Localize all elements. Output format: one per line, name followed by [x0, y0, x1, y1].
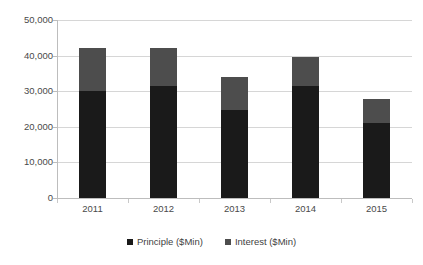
x-tick-label: 2013 — [205, 203, 265, 215]
bar-segment[interactable] — [150, 86, 177, 198]
y-tick-label: 30,000 — [3, 86, 53, 96]
x-tick-mark — [57, 199, 58, 203]
bar-group[interactable] — [150, 20, 177, 198]
bar-group[interactable] — [363, 20, 390, 198]
x-axis-line — [57, 198, 412, 199]
bar-segment[interactable] — [79, 91, 106, 198]
legend-item[interactable]: Interest ($Min) — [225, 236, 296, 247]
legend-label: Interest ($Min) — [235, 236, 296, 247]
x-tick-mark — [341, 199, 342, 203]
plot-area — [57, 20, 412, 198]
bar-segment[interactable] — [292, 86, 319, 198]
legend-item[interactable]: Principle ($Min) — [127, 236, 203, 247]
bar-segment[interactable] — [363, 99, 390, 123]
x-tick-label: 2012 — [134, 203, 194, 215]
x-tick-mark — [128, 199, 129, 203]
x-tick-mark — [199, 199, 200, 203]
bar-group[interactable] — [221, 20, 248, 198]
x-tick-label: 2011 — [63, 203, 123, 215]
legend-label: Principle ($Min) — [137, 236, 203, 247]
x-axis: 20112012201320142015 — [57, 203, 412, 219]
x-tick-label: 2015 — [347, 203, 407, 215]
bar-segment[interactable] — [221, 77, 248, 110]
bar-segment[interactable] — [150, 48, 177, 86]
y-axis-line — [57, 20, 58, 199]
stacked-bar-chart: 010,00020,00030,00040,00050,000 20112012… — [0, 0, 423, 265]
y-tick-label: 10,000 — [3, 157, 53, 167]
y-axis: 010,00020,00030,00040,00050,000 — [0, 0, 53, 265]
y-tick-label: 20,000 — [3, 122, 53, 132]
y-tick-label: 50,000 — [3, 15, 53, 25]
bar-group[interactable] — [79, 20, 106, 198]
bar-segment[interactable] — [79, 48, 106, 91]
x-tick-mark — [412, 199, 413, 203]
x-tick-label: 2014 — [276, 203, 336, 215]
chart-legend: Principle ($Min)Interest ($Min) — [0, 236, 423, 247]
bar-segment[interactable] — [221, 110, 248, 198]
bar-group[interactable] — [292, 20, 319, 198]
bar-segment[interactable] — [363, 123, 390, 198]
square-marker-icon — [127, 239, 133, 245]
square-marker-icon — [225, 239, 231, 245]
y-tick-label: 40,000 — [3, 51, 53, 61]
bar-segment[interactable] — [292, 57, 319, 85]
y-tick-label: 0 — [3, 193, 53, 203]
x-tick-mark — [270, 199, 271, 203]
